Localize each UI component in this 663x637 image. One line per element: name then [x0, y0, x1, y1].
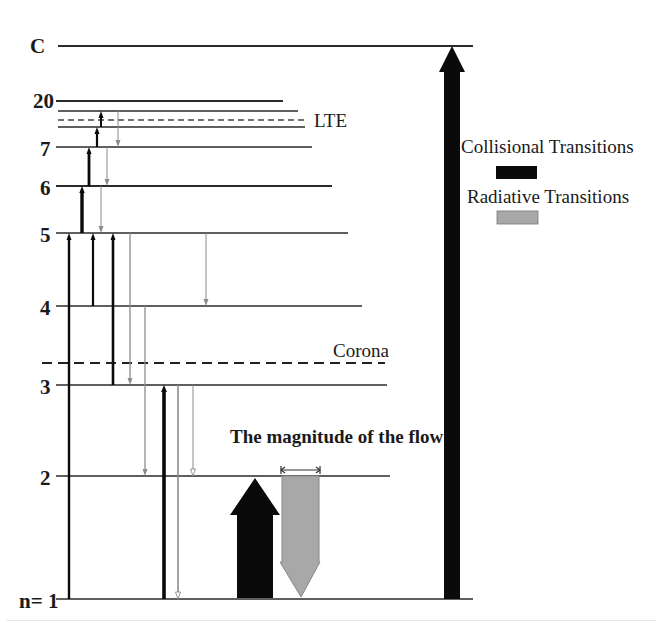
collisional-transition-arrow — [439, 46, 465, 599]
radiative-transition-arrow — [176, 385, 181, 599]
energy-level-label-20: 20 — [33, 89, 54, 113]
energy-level-label-3: 3 — [40, 375, 51, 399]
legend-radiative-swatch — [497, 211, 538, 224]
flow-radiative-arrow-icon — [280, 476, 320, 597]
legend-collisional-label: Collisional Transitions — [461, 136, 634, 157]
energy-level-label-2: 2 — [40, 466, 51, 490]
collisional-transition-arrow — [79, 186, 84, 233]
flow-collisional-arrow-icon — [230, 478, 280, 598]
flow-magnitude-label: The magnitude of the flow — [230, 426, 444, 447]
radiative-transition-arrow — [99, 186, 104, 233]
energy-level-label-5: 5 — [40, 223, 51, 247]
collisional-transition-arrow — [99, 111, 104, 127]
collisional-transition-arrow — [67, 233, 72, 599]
legend: Collisional Transitions Radiative Transi… — [461, 136, 634, 224]
radiative-transition-arrow — [143, 306, 148, 476]
collisional-transition-arrow — [95, 127, 100, 147]
radiative-transition-arrow — [204, 233, 209, 306]
radiative-transition-arrow — [105, 147, 110, 186]
lte-label: LTE — [314, 110, 347, 131]
collisional-transition-arrow — [91, 233, 96, 306]
flow-magnitude-note: The magnitude of the flow — [230, 426, 444, 598]
corona-label: Corona — [333, 340, 390, 361]
energy-level-label-1: n= 1 — [19, 589, 58, 613]
legend-radiative-label: Radiative Transitions — [467, 186, 629, 207]
energy-level-label-4: 4 — [40, 296, 51, 320]
energy-level-label-6: 6 — [40, 176, 51, 200]
energy-level-diagram: LTE Corona C20765432n= 1 Collisional Tra… — [0, 0, 663, 637]
legend-collisional-swatch — [496, 166, 537, 179]
flow-width-bracket — [281, 466, 320, 474]
radiative-transition-arrow — [191, 385, 196, 476]
radiative-transition-arrow — [116, 111, 121, 147]
level-labels: C20765432n= 1 — [19, 34, 58, 613]
energy-level-label-7: 7 — [40, 137, 51, 161]
energy-level-label-C: C — [30, 34, 45, 58]
collisional-transition-arrow — [161, 385, 167, 599]
collisional-transition-arrow — [87, 147, 92, 186]
bottom-divider — [6, 620, 656, 621]
